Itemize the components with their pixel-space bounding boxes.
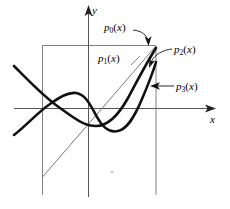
curve-label-p1-arg: (x) [107, 52, 119, 64]
leader-p0 [133, 30, 152, 46]
leader-p0-stroke [133, 30, 148, 41]
curve-p0-line [43, 46, 157, 177]
y-axis-label: y [92, 5, 97, 16]
curve-label-p0-arg: (x) [113, 21, 125, 33]
x-axis-label: x [210, 114, 215, 125]
curve-label-p1: p1(x) [98, 53, 120, 65]
curve-label-p0: p0(x) [104, 22, 126, 34]
scan-speck [111, 171, 114, 174]
curve-label-p3-base: p [176, 80, 182, 92]
curve-label-p3: p3(x) [176, 81, 198, 93]
curve-label-p1-base: p [98, 52, 104, 64]
leader-p0-arrowhead [145, 36, 152, 46]
curve-label-p2-base: p [174, 43, 180, 55]
curve-label-p3-arg: (x) [185, 80, 197, 92]
curve-label-p2: p2(x) [174, 44, 196, 56]
leader-p1-stroke [131, 56, 140, 65]
curve-label-p2-arg: (x) [183, 43, 195, 55]
figure-root: p0(x) p1(x) p2(x) p3(x) y x [0, 0, 230, 209]
curve-label-p0-base: p [104, 21, 110, 33]
leader-p3 [150, 82, 174, 90]
